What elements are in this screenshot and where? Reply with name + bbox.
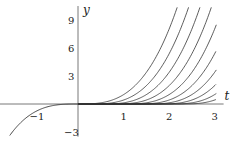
y-tick-label: 3 xyxy=(68,71,74,82)
y-tick-label: −3 xyxy=(64,127,79,138)
y-tick-label: 9 xyxy=(68,15,74,26)
x-axis-label: t xyxy=(225,89,230,103)
curve-c-0-5 xyxy=(78,7,200,104)
x-tick-label: 2 xyxy=(166,111,172,122)
chart: ty−1123−3369 xyxy=(0,0,237,149)
tick-labels: ty−1123−3369 xyxy=(30,3,230,138)
y-tick-label: 6 xyxy=(68,43,74,54)
curve-c-0-75 xyxy=(78,7,211,104)
x-tick-label: 1 xyxy=(121,111,127,122)
y-axis-label: y xyxy=(82,3,90,17)
x-tick-label: 3 xyxy=(212,111,218,122)
x-tick-label: −1 xyxy=(30,111,45,122)
curve-c-1-25 xyxy=(78,51,216,104)
curve-c-0 xyxy=(78,7,177,104)
